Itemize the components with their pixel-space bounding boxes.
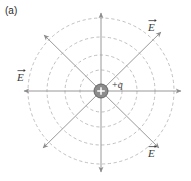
point-charge xyxy=(94,84,108,98)
charge-label: +q xyxy=(112,80,123,90)
charge-label-symbol: q xyxy=(118,79,123,90)
field-label-text: E xyxy=(148,148,155,159)
field-label-top-right: E xyxy=(148,22,155,33)
field-line-down-right xyxy=(101,91,159,148)
field-label-text: E xyxy=(148,22,155,33)
field-label-text: E xyxy=(17,72,24,83)
vector-arrow-icon xyxy=(17,68,26,73)
field-label-left: E xyxy=(17,72,24,83)
figure-container: (a) xyxy=(0,0,191,181)
field-diagram-svg xyxy=(0,0,191,181)
vector-arrow-icon xyxy=(148,144,157,149)
field-label-bottom-right: E xyxy=(148,148,155,159)
field-line-down-left xyxy=(43,91,101,148)
vector-arrow-icon xyxy=(148,18,157,23)
field-line-up-left xyxy=(44,35,101,91)
field-line-up-right xyxy=(101,32,161,91)
